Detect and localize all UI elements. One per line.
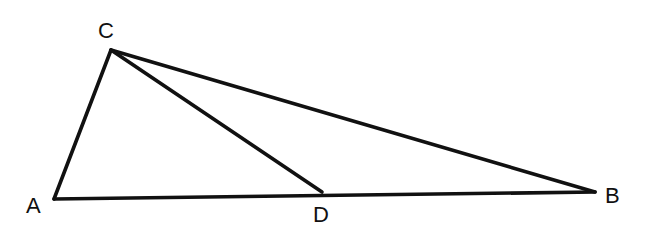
segment-ab [54,192,595,199]
segment-cb [111,50,595,192]
segment-ca [54,50,111,199]
triangle-diagram: A B C D [0,0,646,240]
label-b: B [605,183,620,208]
segments [54,50,595,199]
segment-cd [111,50,322,192]
label-a: A [26,193,41,218]
label-c: C [98,18,114,43]
label-d: D [313,202,329,227]
